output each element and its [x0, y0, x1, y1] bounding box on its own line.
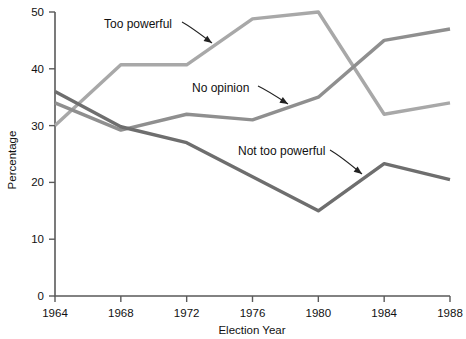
x-tick-label: 1976: [240, 307, 266, 319]
data-series-group: [55, 12, 450, 211]
y-axis-tick-labels: 01020304050: [31, 6, 44, 302]
y-tick-label: 20: [31, 176, 44, 188]
series-label-too-powerful: Too powerful: [104, 17, 172, 31]
series-label-no-opinion: No opinion: [192, 81, 249, 95]
chart-svg: 01020304050 1964196819721976198019841988…: [0, 0, 466, 339]
x-tick-label: 1964: [42, 307, 68, 319]
y-axis-title: Percentage: [6, 131, 18, 190]
x-axis-tick-labels: 1964196819721976198019841988: [42, 307, 463, 319]
y-tick-label: 50: [31, 6, 44, 18]
x-tick-label: 1980: [306, 307, 332, 319]
x-tick-label: 1968: [108, 307, 134, 319]
y-tick-label: 0: [38, 290, 44, 302]
y-tick-label: 30: [31, 120, 44, 132]
series-label-not-too-powerful: Not too powerful: [238, 144, 325, 158]
annotation-arrowhead-too-powerful: [204, 36, 212, 43]
y-tick-label: 40: [31, 63, 44, 75]
x-tick-label: 1972: [174, 307, 200, 319]
series-annotations-group: Too powerfulNo opinionNot too powerful: [104, 17, 362, 174]
series-line-no-opinion: [55, 29, 450, 130]
line-chart: 01020304050 1964196819721976198019841988…: [0, 0, 466, 339]
x-tick-label: 1984: [371, 307, 397, 319]
annotation-arrowhead-no-opinion: [279, 97, 288, 104]
x-tick-label: 1988: [437, 307, 463, 319]
x-axis-title: Election Year: [218, 324, 285, 336]
y-tick-label: 10: [31, 233, 44, 245]
